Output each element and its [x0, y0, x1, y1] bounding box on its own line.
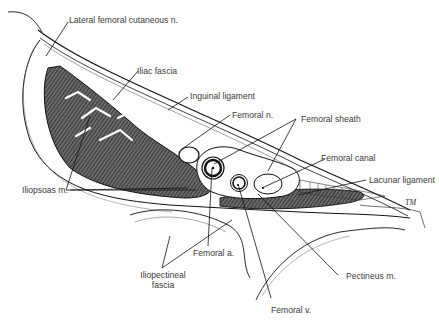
label-iliopectineal-fascia: Iliopectineal fascia	[138, 270, 188, 290]
label-lateral-femoral-cutaneous-nerve: Lateral femoral cutaneous n.	[69, 15, 178, 25]
label-lacunar-ligament: Lacunar ligament	[369, 175, 435, 185]
label-pectineus-muscle: Pectineus m.	[346, 271, 396, 281]
label-inguinal-ligament: Inguinal ligament	[190, 91, 255, 101]
label-iliac-fascia: Iliac fascia	[137, 66, 177, 76]
label-femoral-nerve: Femoral n.	[232, 110, 273, 120]
femoral-cross-section-diagram: TM Lateral femoral cutaneous n. Iliac fa…	[0, 0, 439, 328]
label-femoral-vein: Femoral v.	[271, 305, 311, 315]
label-iliopectineal-line1: Iliopectineal	[138, 270, 188, 280]
label-femoral-canal: Femoral canal	[321, 153, 375, 163]
label-iliopectineal-line2: fascia	[138, 280, 188, 290]
label-femoral-sheath: Femoral sheath	[301, 114, 361, 124]
svg-text:TM: TM	[405, 198, 417, 207]
label-iliopsoas-muscle: Iliopsoas m.	[22, 185, 68, 195]
label-femoral-artery: Femoral a.	[193, 248, 234, 258]
